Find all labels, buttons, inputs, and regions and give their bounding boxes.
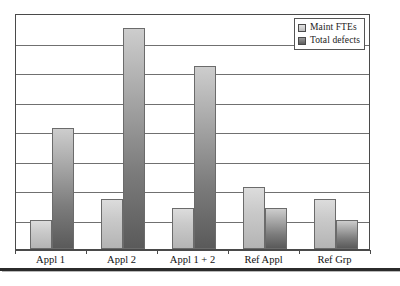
bar-group bbox=[229, 15, 300, 249]
bar bbox=[243, 187, 265, 249]
plot-area: Maint FTEs Total defects bbox=[15, 14, 370, 250]
bar bbox=[30, 220, 52, 250]
bars-layer bbox=[16, 15, 369, 249]
legend-label-total-defects: Total defects bbox=[310, 35, 360, 46]
bar-group bbox=[16, 15, 87, 249]
bar bbox=[52, 128, 74, 249]
bar-group bbox=[87, 15, 158, 249]
x-axis-tick bbox=[370, 250, 371, 254]
bar bbox=[265, 208, 287, 249]
bar bbox=[314, 199, 336, 249]
bar bbox=[194, 66, 216, 249]
bar-group bbox=[158, 15, 229, 249]
bar bbox=[336, 220, 358, 250]
legend-item-total-defects: Total defects bbox=[298, 34, 360, 47]
legend-swatch-icon-total-defects bbox=[298, 37, 306, 45]
bar bbox=[123, 28, 145, 249]
bar bbox=[101, 199, 123, 249]
x-axis-label: Appl 2 bbox=[86, 254, 157, 265]
legend-item-maint-ftes: Maint FTEs bbox=[298, 21, 360, 34]
chart-figure: Maint FTEs Total defects Appl 1Appl 2App… bbox=[0, 0, 400, 286]
x-axis-label: Ref Appl bbox=[228, 254, 299, 265]
legend-label-maint-ftes: Maint FTEs bbox=[310, 22, 357, 33]
bar-group bbox=[300, 15, 371, 249]
x-axis-label: Ref Grp bbox=[299, 254, 370, 265]
x-axis-label: Appl 1 + 2 bbox=[157, 254, 228, 265]
x-axis-label: Appl 1 bbox=[15, 254, 86, 265]
chart-legend: Maint FTEs Total defects bbox=[294, 18, 365, 50]
bar bbox=[172, 208, 194, 249]
x-axis-line bbox=[15, 250, 370, 251]
bottom-rule-shadow bbox=[2, 271, 400, 272]
legend-swatch-icon-maint-ftes bbox=[298, 24, 306, 32]
